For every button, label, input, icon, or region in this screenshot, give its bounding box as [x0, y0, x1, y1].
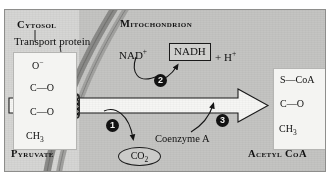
nad-plus-label: NAD+	[119, 48, 147, 61]
acetyl-coa-label: Acetyl CoA	[248, 149, 307, 160]
pyruvate-line-1: O−	[32, 59, 43, 71]
acetyl-coa-line-2: C—O	[280, 99, 304, 109]
pyruvate-line-4: CH3	[26, 131, 44, 144]
acetyl-coa-line-3: CH3	[279, 124, 297, 137]
proton-label: + H+	[215, 50, 236, 63]
acetyl-coa-line-1: S—CoA	[280, 75, 314, 85]
figure-root: O− C—O C—O CH3 S—CoA C—O CH3 Cytosol Mit…	[0, 0, 330, 188]
cytosol-label: Cytosol	[17, 20, 56, 31]
mitochondrion-label: Mitochondrion	[120, 19, 192, 30]
pyruvate-structure: O− C—O C—O CH3	[13, 52, 77, 150]
nadh-label: NADH	[174, 45, 206, 57]
pyruvate-line-3: C—O	[30, 107, 54, 117]
acetyl-coa-structure: S—CoA C—O CH3	[273, 68, 326, 150]
step-badge-1: 1	[106, 119, 119, 132]
step-badge-3: 3	[216, 114, 229, 127]
illustration-canvas: O− C—O C—O CH3 S—CoA C—O CH3 Cytosol Mit…	[4, 9, 326, 172]
co2-oval: CO2	[118, 147, 161, 166]
step-badge-2: 2	[154, 74, 167, 87]
transport-protein-label: Transport protein	[14, 36, 90, 47]
pyruvate-line-2: C—O	[30, 83, 54, 93]
nadh-box: NADH	[169, 43, 211, 61]
coenzyme-a-label: Coenzyme A	[155, 134, 210, 145]
pyruvate-label: Pyruvate	[11, 149, 54, 160]
